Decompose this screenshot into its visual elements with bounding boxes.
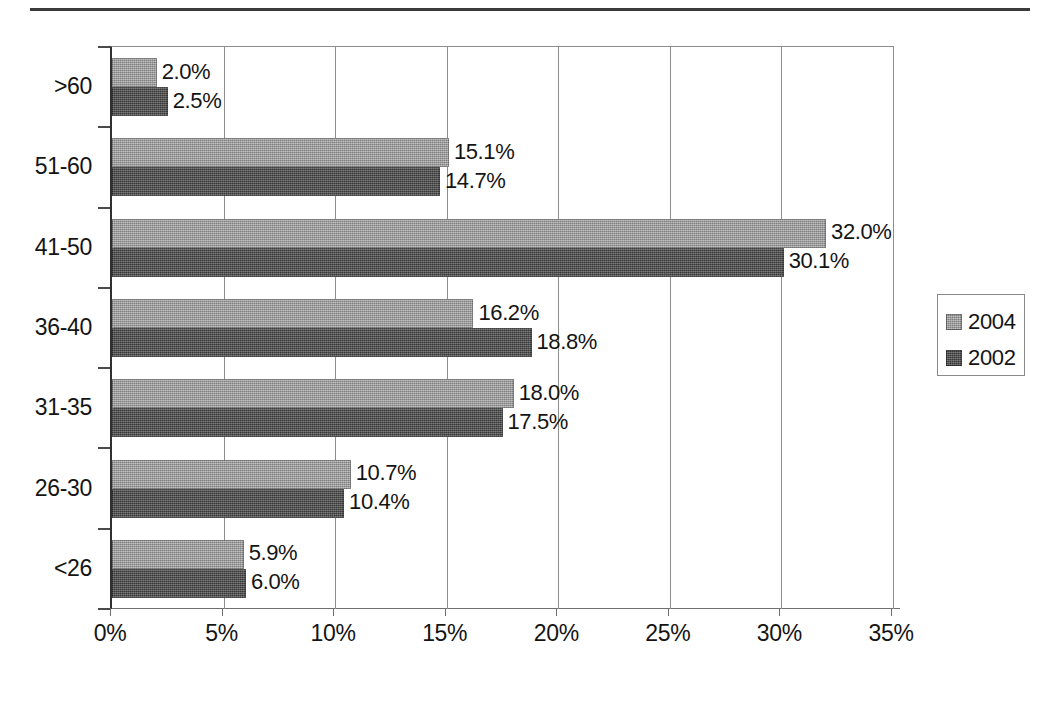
x-tick-label-15: 15% bbox=[400, 620, 490, 647]
legend-label-2004: 2004 bbox=[968, 309, 1016, 335]
bar-value-label-2002-41-50: 30.1% bbox=[789, 248, 849, 274]
category-label-36-40: 36-40 bbox=[0, 314, 92, 341]
bar-value-label-2002-26: 6.0% bbox=[251, 569, 300, 595]
category-label-26-30: 26-30 bbox=[0, 474, 92, 501]
bar-2002-60 bbox=[112, 87, 168, 116]
bar-value-label-2002-60: 2.5% bbox=[173, 88, 222, 114]
bar-2004-51-60 bbox=[112, 138, 449, 167]
bar-value-label-2002-36-40: 18.8% bbox=[537, 329, 597, 355]
x-tick-mark-30 bbox=[779, 608, 780, 616]
bar-value-label-2004-26: 5.9% bbox=[249, 540, 298, 566]
x-tick-label-30: 30% bbox=[734, 620, 824, 647]
bar-value-label-2004-31-35: 18.0% bbox=[519, 380, 579, 406]
x-tick-label-20: 20% bbox=[511, 620, 601, 647]
bar-value-label-2004-60: 2.0% bbox=[162, 59, 211, 85]
bar-2002-51-60 bbox=[112, 167, 440, 196]
gridline-35 bbox=[893, 47, 894, 609]
bar-2002-26 bbox=[112, 569, 246, 598]
legend-item-2002[interactable]: 2002 bbox=[946, 345, 1016, 371]
gridline-30 bbox=[781, 47, 782, 609]
bar-value-label-2004-41-50: 32.0% bbox=[831, 219, 891, 245]
x-tick-mark-35 bbox=[891, 608, 892, 616]
x-tick-label-10: 10% bbox=[288, 620, 378, 647]
x-tick-label-5: 5% bbox=[177, 620, 267, 647]
category-label-41-50: 41-50 bbox=[0, 233, 92, 260]
bar-value-label-2002-31-35: 17.5% bbox=[508, 409, 568, 435]
legend-label-2002: 2002 bbox=[968, 345, 1016, 371]
bar-value-label-2002-51-60: 14.7% bbox=[445, 168, 505, 194]
bar-2004-36-40 bbox=[112, 299, 473, 328]
chart-legend: 20042002 bbox=[937, 294, 1025, 376]
x-tick-mark-15 bbox=[445, 608, 446, 616]
x-tick-label-25: 25% bbox=[623, 620, 713, 647]
bar-value-label-2004-36-40: 16.2% bbox=[478, 300, 538, 326]
bar-2004-26 bbox=[112, 540, 244, 569]
x-tick-mark-25 bbox=[668, 608, 669, 616]
category-label-26: <26 bbox=[0, 554, 92, 581]
category-label-60: >60 bbox=[0, 73, 92, 100]
y-tick-mark-4 bbox=[98, 367, 110, 369]
legend-item-2004[interactable]: 2004 bbox=[946, 309, 1016, 335]
x-tick-label-0: 0% bbox=[65, 620, 155, 647]
y-tick-mark-2 bbox=[98, 207, 110, 209]
bar-2004-41-50 bbox=[112, 219, 826, 248]
x-tick-mark-0 bbox=[110, 608, 111, 616]
bar-2002-36-40 bbox=[112, 328, 532, 357]
x-tick-mark-20 bbox=[556, 608, 557, 616]
y-tick-mark-0 bbox=[98, 46, 110, 48]
y-tick-mark-7 bbox=[98, 608, 110, 610]
gridline-25 bbox=[670, 47, 671, 609]
bar-2002-26-30 bbox=[112, 489, 344, 518]
legend-swatch-2004 bbox=[946, 314, 962, 330]
x-tick-mark-5 bbox=[222, 608, 223, 616]
bar-2004-31-35 bbox=[112, 379, 514, 408]
plot-area bbox=[110, 46, 894, 609]
bar-chart-figure: 0%5%10%15%20%25%30%35% >6051-6041-5036-4… bbox=[0, 0, 1058, 701]
category-label-51-60: 51-60 bbox=[0, 153, 92, 180]
bar-2004-26-30 bbox=[112, 460, 351, 489]
y-tick-mark-3 bbox=[98, 287, 110, 289]
bar-value-label-2002-26-30: 10.4% bbox=[349, 489, 409, 515]
x-tick-label-35: 35% bbox=[846, 620, 936, 647]
legend-swatch-2002 bbox=[946, 350, 962, 366]
category-label-31-35: 31-35 bbox=[0, 394, 92, 421]
y-tick-mark-5 bbox=[98, 447, 110, 449]
bar-value-label-2004-26-30: 10.7% bbox=[356, 460, 416, 486]
x-tick-mark-10 bbox=[333, 608, 334, 616]
bar-value-label-2004-51-60: 15.1% bbox=[454, 139, 514, 165]
bar-2004-60 bbox=[112, 58, 157, 87]
bar-2002-31-35 bbox=[112, 408, 503, 437]
y-tick-mark-6 bbox=[98, 528, 110, 530]
y-tick-mark-1 bbox=[98, 126, 110, 128]
bar-2002-41-50 bbox=[112, 248, 784, 277]
